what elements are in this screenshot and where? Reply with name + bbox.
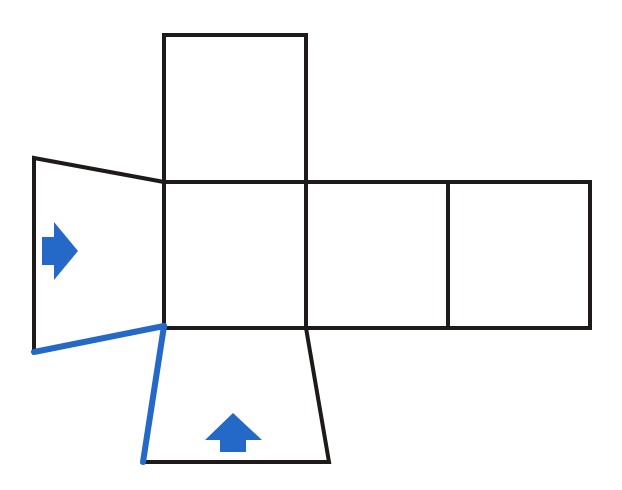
arrow-up-icon bbox=[205, 413, 262, 452]
arrow-right-icon bbox=[42, 222, 78, 280]
highlighted-edges-group bbox=[34, 326, 164, 462]
right-square-2-face bbox=[448, 182, 590, 328]
top-square-face bbox=[164, 35, 306, 182]
right-square-1-face bbox=[306, 182, 448, 328]
box-net-diagram: Net of a box with folding flaps Cube-lik… bbox=[0, 0, 622, 490]
bottom-flap-left-edge bbox=[143, 326, 164, 462]
center-square-face bbox=[164, 182, 306, 328]
left-flap-bottom-edge bbox=[34, 326, 164, 352]
net-canvas bbox=[0, 0, 622, 490]
faces-group bbox=[34, 35, 590, 462]
